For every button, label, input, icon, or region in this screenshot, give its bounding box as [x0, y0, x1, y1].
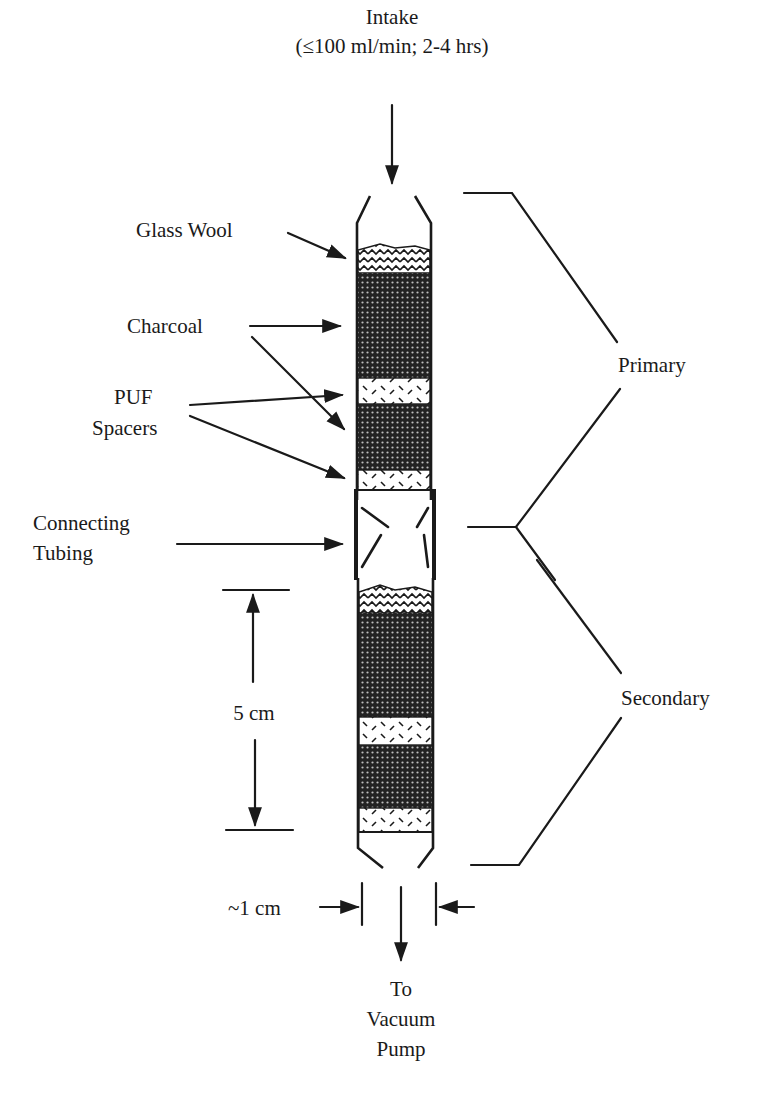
primary-puf-1 [358, 378, 430, 404]
glass-wool-label: Glass Wool [136, 218, 233, 242]
secondary-tube [358, 578, 433, 868]
outlet-label-line3: Pump [376, 1037, 425, 1061]
primary-puf-2 [358, 470, 430, 490]
outlet-label-line2: Vacuum [367, 1007, 436, 1031]
intake-label: Intake [366, 5, 418, 29]
length-dimension: 5 cm [223, 590, 293, 830]
length-label: 5 cm [233, 701, 274, 725]
primary-label: Primary [618, 353, 686, 377]
secondary-glass-wool [359, 585, 432, 613]
diameter-label: ~1 cm [228, 896, 281, 920]
secondary-puf-2 [359, 808, 432, 832]
primary-bracket [464, 193, 620, 580]
primary-tube [357, 196, 431, 500]
outlet-label-line1: To [390, 977, 412, 1001]
intake-flow-label: (≤100 ml/min; 2-4 hrs) [296, 34, 489, 58]
glass-wool-arrow-icon [288, 233, 345, 258]
charcoal-arrow-2-icon [252, 337, 344, 429]
primary-glass-wool [358, 244, 430, 273]
sorbent-tube-diagram: Intake (≤100 ml/min; 2-4 hrs) [0, 0, 767, 1094]
secondary-charcoal-1 [359, 613, 432, 717]
primary-charcoal-2 [358, 404, 430, 470]
secondary-charcoal-2 [359, 745, 432, 808]
puf-label-line1: PUF [114, 385, 153, 409]
secondary-label: Secondary [621, 686, 710, 710]
secondary-bracket [471, 560, 621, 865]
tubing-label-line1: Connecting [33, 511, 130, 535]
tubing-label-line2: Tubing [33, 541, 93, 565]
puf-label-line2: Spacers [92, 416, 157, 440]
primary-charcoal-1 [358, 273, 430, 378]
diameter-dimension: ~1 cm [228, 883, 474, 925]
puf-arrow-2-icon [190, 416, 344, 478]
charcoal-label: Charcoal [127, 314, 203, 338]
secondary-puf-1 [359, 717, 432, 745]
connecting-tubing [356, 489, 434, 580]
